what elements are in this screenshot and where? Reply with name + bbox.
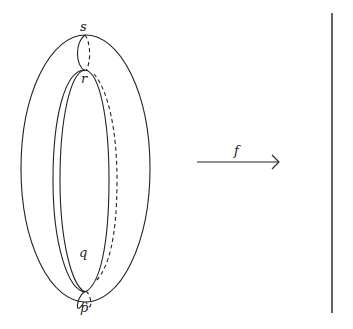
- point-label-s: s: [80, 19, 87, 34]
- torus-hidden-back-curve: [94, 74, 117, 281]
- map-arrow: f: [197, 143, 279, 169]
- point-label-p: p: [80, 300, 89, 315]
- point-label-q: q: [79, 245, 87, 260]
- meridian-top-back: [85, 35, 90, 71]
- point-label-r: r: [81, 71, 88, 86]
- meridian-top-front: [78, 35, 86, 71]
- diagram-canvas: s r q p f: [0, 0, 353, 329]
- arrow-label-f: f: [233, 143, 241, 158]
- torus-inner-right: [85, 70, 109, 292]
- torus: s r q p: [21, 19, 150, 315]
